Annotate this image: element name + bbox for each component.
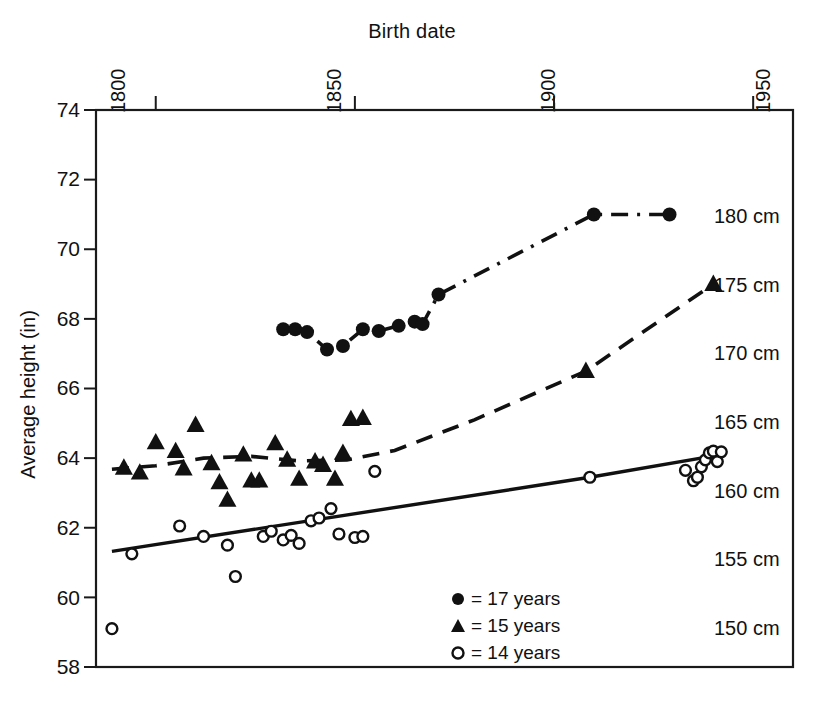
data-point-filled-circle	[416, 317, 430, 331]
data-point-open-circle	[357, 531, 368, 542]
data-point-filled-triangle	[147, 433, 165, 449]
data-point-open-circle	[266, 526, 277, 537]
filled-triangle-icon	[447, 612, 469, 639]
plot-frame	[96, 110, 793, 667]
trend-line-17-years-connector	[283, 214, 669, 349]
data-point-filled-triangle	[334, 443, 352, 459]
data-point-filled-triangle	[577, 362, 595, 378]
data-point-filled-triangle	[115, 458, 133, 474]
data-point-filled-circle	[372, 324, 386, 338]
open-circle-icon	[447, 639, 469, 666]
data-point-filled-triangle	[266, 434, 284, 450]
trend-line-15-years-trend	[112, 284, 713, 469]
filled-circle-icon	[447, 585, 469, 612]
legend-item-17-years: = 17 years	[447, 585, 560, 612]
data-point-filled-circle	[300, 325, 314, 339]
data-point-open-circle	[230, 571, 241, 582]
data-point-open-circle	[680, 465, 691, 476]
data-point-open-circle	[369, 466, 380, 477]
data-point-filled-triangle	[187, 416, 205, 432]
data-point-open-circle	[174, 521, 185, 532]
data-point-open-circle	[314, 513, 325, 524]
data-point-filled-circle	[663, 207, 677, 221]
series-15-years	[115, 275, 723, 507]
data-point-filled-circle	[276, 322, 290, 336]
data-point-filled-circle	[587, 207, 601, 221]
data-point-open-circle	[334, 529, 345, 540]
legend-label-14-years: = 14 years	[469, 639, 560, 666]
data-point-filled-circle	[356, 322, 370, 336]
data-point-filled-circle	[320, 343, 334, 357]
legend-item-14-years: = 14 years	[447, 639, 560, 666]
legend: = 17 years = 15 years = 14 years	[447, 585, 560, 666]
data-point-filled-triangle	[290, 470, 308, 486]
plot-area	[0, 0, 824, 703]
data-point-filled-triangle	[218, 490, 236, 506]
series-17-years	[276, 207, 676, 356]
data-point-filled-triangle	[234, 445, 252, 461]
data-point-filled-circle	[432, 288, 446, 302]
data-point-open-circle	[126, 548, 137, 559]
data-point-filled-circle	[288, 322, 302, 336]
legend-label-17-years: = 17 years	[469, 585, 560, 612]
legend-label-15-years: = 15 years	[469, 612, 560, 639]
data-point-filled-triangle	[704, 275, 722, 291]
data-point-filled-triangle	[326, 470, 344, 486]
data-point-open-circle	[107, 623, 118, 634]
legend-item-15-years: = 15 years	[447, 612, 560, 639]
data-point-open-circle	[198, 531, 209, 542]
data-point-filled-circle	[336, 339, 350, 353]
data-point-filled-triangle	[210, 473, 228, 489]
data-point-open-circle	[692, 472, 703, 483]
data-point-open-circle	[294, 538, 305, 549]
data-point-filled-triangle	[167, 442, 185, 458]
chart-root: Birth date Average height (in) 1800 1850…	[0, 0, 824, 703]
data-point-open-circle	[584, 472, 595, 483]
data-point-filled-triangle	[354, 409, 372, 425]
data-point-open-circle	[222, 540, 233, 551]
data-point-open-circle	[326, 503, 337, 514]
data-point-filled-circle	[392, 319, 406, 333]
data-point-open-circle	[716, 446, 727, 457]
series-14-years	[107, 446, 727, 634]
